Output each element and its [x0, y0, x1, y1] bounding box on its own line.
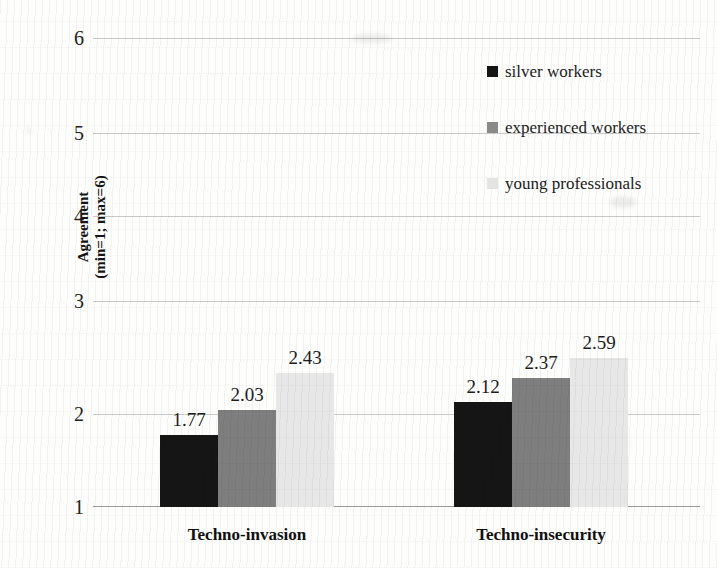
- bar-techno-insecurity-experienced-workers: [512, 378, 570, 507]
- bar-value-label: 2.37: [502, 353, 580, 372]
- gridline-6: [93, 38, 700, 39]
- legend-item-experienced-workers: experienced workers: [487, 114, 646, 140]
- y-axis-title-line-1: Agreement: [75, 127, 92, 327]
- category-label-techno-invasion: Techno-invasion: [157, 526, 337, 543]
- legend-label: experienced workers: [505, 119, 646, 136]
- y-tick-6: 6: [48, 28, 84, 48]
- y-tick-2: 2: [48, 404, 84, 424]
- y-tick-1: 1: [48, 497, 84, 517]
- bar-value-label: 1.77: [150, 410, 228, 429]
- category-label-techno-insecurity: Techno-insecurity: [451, 526, 631, 543]
- bar-chart: 6 5 4 3 2 1 Agreement (min=1; max=6) 1.7…: [0, 0, 717, 568]
- bar-value-label: 2.43: [266, 348, 344, 367]
- bar-techno-invasion-experienced-workers: [218, 410, 276, 507]
- legend-swatch-icon: [487, 178, 498, 189]
- bar-techno-invasion-young-professionals: [276, 373, 334, 507]
- bar-techno-insecurity-silver-workers: [454, 402, 512, 507]
- bar-value-label: 2.03: [208, 385, 286, 404]
- legend-swatch-icon: [487, 122, 498, 133]
- bar-value-label: 2.59: [560, 333, 638, 352]
- bar-value-label: 2.12: [444, 377, 522, 396]
- legend-item-silver-workers: silver workers: [487, 58, 646, 84]
- legend-item-young-professionals: young professionals: [487, 170, 646, 196]
- gridline-3: [93, 301, 700, 302]
- bar-techno-invasion-silver-workers: [160, 435, 218, 507]
- legend-swatch-icon: [487, 66, 498, 77]
- legend-label: young professionals: [505, 175, 641, 192]
- legend-label: silver workers: [505, 63, 602, 80]
- chart-legend: silver workers experienced workers young…: [487, 58, 646, 226]
- bar-techno-insecurity-young-professionals: [570, 358, 628, 507]
